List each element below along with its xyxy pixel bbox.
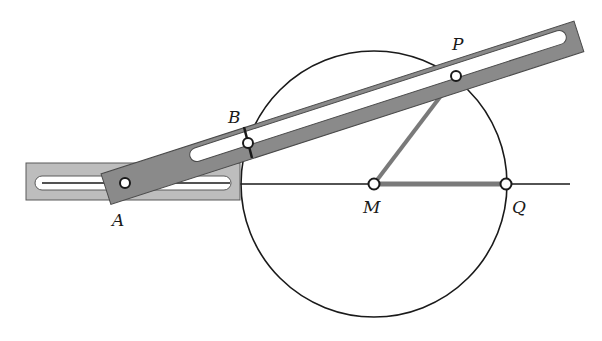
label-Q: Q [512,197,526,217]
linkage-diagram: A B P M Q [0,0,602,341]
pivot-A [120,178,130,188]
label-P: P [451,34,464,54]
pivot-Q [501,179,512,190]
pivot-B [243,138,253,148]
pivot-P [451,71,461,81]
slotted-bar [101,21,584,204]
label-B: B [227,107,241,127]
pivot-M [369,179,380,190]
label-A: A [110,210,124,230]
label-M: M [362,197,381,217]
